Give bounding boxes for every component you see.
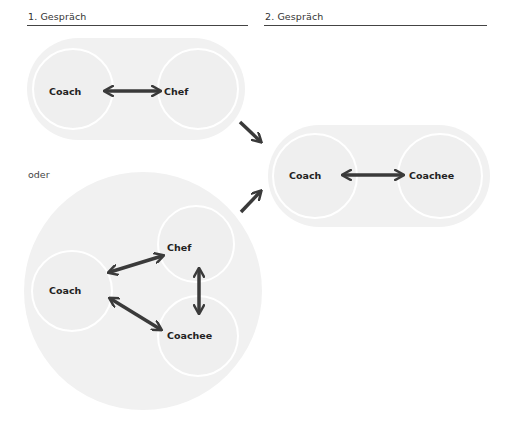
arrow-up-right-icon [241, 192, 260, 212]
node-label-chef: Chef [164, 86, 189, 97]
node-label-chef: Chef [167, 242, 192, 253]
group-alternative-conversation: Coach Chef Coachee [24, 172, 262, 410]
node-label-coachee: Coachee [167, 330, 212, 341]
node-label-coach: Coach [49, 86, 82, 97]
group-second-conversation: Coach Coachee [268, 125, 490, 227]
node-label-coachee: Coachee [409, 170, 454, 181]
diagram-canvas: Coach Chef Coach Chef Coachee Coach Coac… [0, 0, 513, 432]
group-first-conversation: Coach Chef [27, 38, 245, 140]
node-label-coach: Coach [289, 170, 322, 181]
arrow-down-right-icon [240, 122, 260, 141]
node-label-coach: Coach [49, 285, 82, 296]
